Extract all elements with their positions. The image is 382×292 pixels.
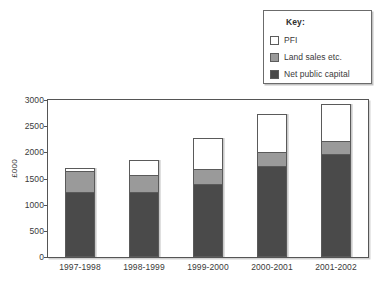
bar-segment <box>65 192 95 257</box>
y-tick-label: 3000 <box>0 95 44 105</box>
bar-stack[interactable] <box>65 168 95 257</box>
bar-segment <box>321 141 351 155</box>
x-tick-label: 1997-1998 <box>50 262 110 272</box>
bar-group <box>257 100 287 257</box>
legend-item-net-public-capital: Net public capital <box>270 66 370 82</box>
bar-segment <box>257 166 287 257</box>
y-tick-label: 500 <box>0 226 44 236</box>
bar-stack[interactable] <box>129 160 159 257</box>
legend-item-land-sales: Land sales etc. <box>270 49 370 65</box>
legend-swatch-land-sales <box>270 53 279 62</box>
legend-swatch-pfi <box>270 36 279 45</box>
y-tick-label: 2000 <box>0 147 44 157</box>
bar-stack[interactable] <box>193 138 223 257</box>
legend-items: PFI Land sales etc. Net public capital <box>270 32 370 83</box>
bar-stack[interactable] <box>257 114 287 257</box>
y-tick-label: 0 <box>0 252 44 262</box>
bar-segment <box>129 160 159 176</box>
legend-label-net-public-capital: Net public capital <box>284 69 350 79</box>
bar-segment <box>257 152 287 166</box>
chart-legend: Key: PFI Land sales etc. Net public capi… <box>263 10 372 84</box>
legend-label-pfi: PFI <box>284 35 297 45</box>
y-tick-label: 2500 <box>0 121 44 131</box>
bar-segment <box>321 154 351 257</box>
bar-segment <box>193 169 223 184</box>
bar-segment <box>129 175 159 192</box>
bar-segment <box>321 104 351 141</box>
y-tick-label: 1000 <box>0 200 44 210</box>
legend-item-pfi: PFI <box>270 32 370 48</box>
legend-title: Key: <box>286 17 305 27</box>
bar-stack[interactable] <box>321 104 351 257</box>
bar-group <box>129 100 159 257</box>
y-tick-label: 1500 <box>0 174 44 184</box>
x-tick-label: 1998-1999 <box>114 262 174 272</box>
bar-group <box>193 100 223 257</box>
x-tick-label: 1999-2000 <box>178 262 238 272</box>
bar-group <box>65 100 95 257</box>
bar-segment <box>257 114 287 153</box>
bar-segment <box>65 171 95 191</box>
bar-segment <box>193 138 223 169</box>
legend-swatch-net-public-capital <box>270 70 279 79</box>
x-tick-label: 2000-2001 <box>242 262 302 272</box>
bar-segment <box>129 192 159 257</box>
bar-group <box>321 100 351 257</box>
stacked-bar-chart: Key: PFI Land sales etc. Net public capi… <box>0 0 382 292</box>
plot-area <box>48 100 368 257</box>
bar-segment <box>193 184 223 257</box>
legend-label-land-sales: Land sales etc. <box>284 52 342 62</box>
bars-layer <box>48 100 368 257</box>
x-tick-label: 2001-2002 <box>306 262 366 272</box>
